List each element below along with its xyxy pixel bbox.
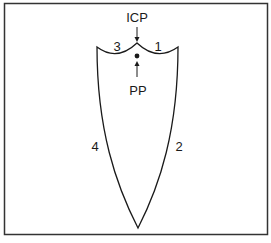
label-side-2: 2 [175,139,182,154]
diagram-canvas: ICP 3 1 PP 4 2 [0,0,271,243]
label-pp: PP [129,83,146,98]
label-side-4: 4 [91,139,98,154]
label-segment-1: 1 [154,39,161,54]
label-icp: ICP [126,10,148,25]
label-segment-3: 3 [113,39,120,54]
pp-dot-icon [135,54,140,59]
